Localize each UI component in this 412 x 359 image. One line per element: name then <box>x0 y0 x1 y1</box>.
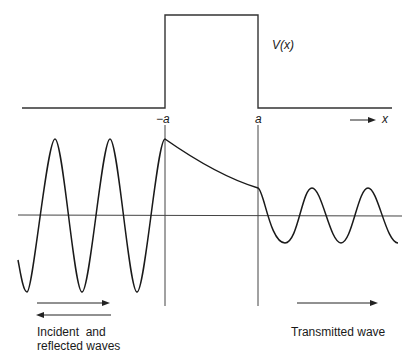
transmitted-arrow-icon <box>297 300 378 306</box>
x-axis-label: x <box>382 112 388 127</box>
potential-label: V(x) <box>272 38 294 53</box>
x-axis-arrow-icon <box>350 117 376 123</box>
wave-axis <box>18 215 402 216</box>
incident-label-line1: Incident and <box>37 325 106 340</box>
tunneling-diagram <box>0 0 412 359</box>
incident-label-line2: reflected waves <box>37 339 120 354</box>
barrier-right-label: a <box>255 112 262 127</box>
reflected-arrow-icon <box>36 312 111 318</box>
incident-arrow-icon <box>37 300 110 306</box>
transmitted-label: Transmitted wave <box>291 325 385 340</box>
barrier-left-label: −a <box>156 112 170 127</box>
potential-curve <box>22 15 392 108</box>
